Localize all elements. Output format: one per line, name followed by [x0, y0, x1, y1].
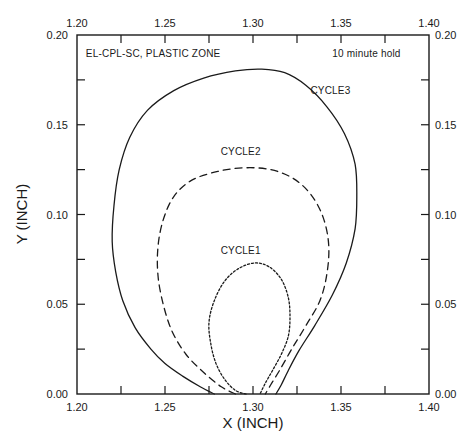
y-tick-label-right: 0.15	[435, 119, 456, 131]
y-tick-label-right: 0.05	[435, 298, 456, 310]
x-tick-label-bottom: 1.40	[418, 401, 439, 413]
x-tick-label-top: 1.25	[154, 17, 175, 29]
plot-area-border	[77, 35, 429, 394]
y-tick-label-left: 0.15	[47, 119, 68, 131]
y-tick-label-right: 0.10	[435, 209, 456, 221]
annotation-el-cpl-sc-plastic-zone: EL-CPL-SC, PLASTIC ZONE	[86, 48, 221, 59]
plot-frame	[77, 35, 429, 394]
x-tick-label-top: 1.40	[418, 17, 439, 29]
y-tick-label-left: 0.05	[47, 298, 68, 310]
y-tick-label-left: 0.10	[47, 209, 68, 221]
y-tick-label-left: 0.20	[47, 29, 68, 41]
axis-ticks	[77, 35, 429, 394]
x-tick-label-top: 1.35	[330, 17, 351, 29]
x-tick-label-bottom: 1.25	[154, 401, 175, 413]
plastic-zone-chart: 1.201.201.251.251.301.301.351.351.401.40…	[0, 0, 474, 447]
chart-annotations: EL-CPL-SC, PLASTIC ZONE10 minute holdCYC…	[86, 48, 401, 256]
annotation-10-minute-hold: 10 minute hold	[332, 48, 400, 59]
curve-cycle3	[112, 69, 357, 394]
curve-cycle2	[157, 168, 329, 394]
x-tick-label-top: 1.20	[66, 17, 87, 29]
x-tick-label-bottom: 1.30	[242, 401, 263, 413]
x-tick-label-bottom: 1.20	[66, 401, 87, 413]
y-tick-label-left: 0.00	[47, 388, 68, 400]
axis-tick-labels: 1.201.201.251.251.301.301.351.351.401.40…	[47, 17, 457, 413]
x-axis-title: X (INCH)	[223, 414, 284, 431]
annotation-cycle3: CYCLE3	[310, 85, 350, 96]
y-axis-title: Y (INCH)	[13, 184, 30, 245]
x-tick-label-bottom: 1.35	[330, 401, 351, 413]
y-tick-label-right: 0.00	[435, 388, 456, 400]
y-tick-label-right: 0.20	[435, 29, 456, 41]
x-tick-label-top: 1.30	[242, 17, 263, 29]
plot-curves	[112, 69, 357, 394]
annotation-cycle2: CYCLE2	[221, 146, 261, 157]
annotation-cycle1: CYCLE1	[221, 245, 261, 256]
